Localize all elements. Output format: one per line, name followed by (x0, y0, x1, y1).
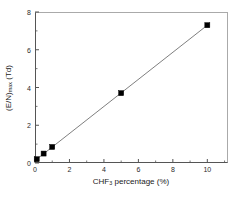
y-tick-label: 8 (19, 9, 31, 16)
y-tick-label: 4 (19, 84, 31, 91)
y-tick-label: 6 (19, 46, 31, 53)
x-tick-label: 8 (171, 166, 175, 173)
y-axis-title-pre: (E/N) (4, 92, 13, 111)
y-tick-label: 2 (19, 122, 31, 129)
plot-area (35, 12, 228, 163)
chart-figure: CHF3 percentage (%) (E/N)max (Td) 024681… (0, 0, 251, 200)
x-tick-label: 6 (136, 166, 140, 173)
y-axis-title-sub: max (7, 82, 13, 92)
y-tick-label: 0 (19, 160, 31, 167)
y-axis-title: (E/N)max (Td) (4, 65, 13, 111)
x-axis-title: CHF3 percentage (%) (93, 177, 169, 186)
x-axis-title-post: percentage (%) (112, 177, 169, 186)
x-tick-label: 4 (102, 166, 106, 173)
x-axis-title-pre: CHF (93, 177, 109, 186)
x-tick-label: 2 (68, 166, 72, 173)
x-tick-label: 10 (203, 166, 211, 173)
x-tick-label: 0 (33, 166, 37, 173)
y-axis-title-post: (Td) (4, 65, 13, 82)
